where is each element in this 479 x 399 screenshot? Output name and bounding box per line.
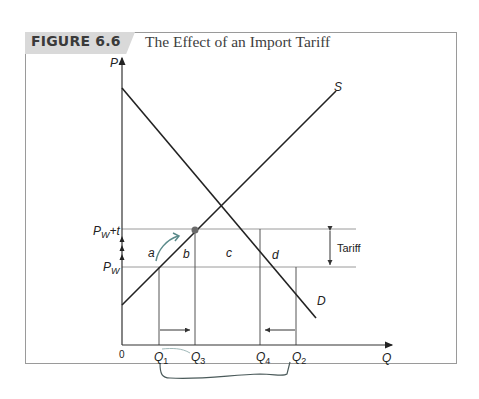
y-axis-label: P [110,56,118,70]
origin-label: 0 [119,349,125,360]
handwritten-arrow-icon [156,236,178,261]
tariff-chart: P Q 0 S D PW+t PW a b c d Tariff Q1 Q3 Q… [0,0,479,399]
supply-curve [122,91,336,305]
handwritten-import-bracket [160,362,290,378]
q1-label: Q1 [154,350,168,366]
x-axis-label: Q [382,351,391,365]
q4-label: Q4 [256,350,270,366]
area-c-label: c [226,246,232,260]
handwritten-q1-q3-stroke [162,348,190,353]
pw-label: PW [103,260,121,276]
area-d-label: d [272,248,279,262]
q2-label: Q2 [292,350,306,366]
pw-t-label: PW+t [93,224,121,240]
supply-label: S [334,80,342,94]
demand-curve [122,88,316,318]
q3-label: Q3 [191,350,205,366]
area-a-label: a [148,246,155,260]
supply-point-q3 [192,227,199,234]
tariff-label: Tariff [337,242,362,254]
y-axis-tick-arrows [120,236,125,260]
area-b-label: b [183,247,190,261]
demand-label: D [317,294,326,308]
